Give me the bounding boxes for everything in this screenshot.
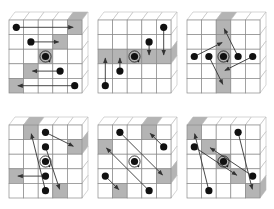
- grid-cell-shaded: [67, 140, 82, 155]
- grid-cell: [202, 78, 217, 93]
- grid-cell: [231, 183, 246, 198]
- grid-cell: [231, 78, 246, 93]
- grid-cell: [67, 154, 82, 169]
- grid-cell: [127, 35, 142, 50]
- particle-dot: [27, 38, 34, 45]
- particle-dot: [71, 82, 78, 89]
- particle-dot: [160, 24, 167, 31]
- grid-cell: [245, 20, 260, 35]
- grid-cell: [156, 183, 171, 198]
- particle-dot: [249, 173, 256, 180]
- grid-cell: [9, 154, 24, 169]
- grid-cell: [24, 49, 39, 64]
- grid-cell: [67, 183, 82, 198]
- panel-1: [9, 12, 88, 93]
- grid-cell: [156, 78, 171, 93]
- panel-2: [98, 12, 177, 93]
- grid-cell: [156, 154, 171, 169]
- grid-cell-shaded: [202, 140, 217, 155]
- particle-dot: [57, 68, 64, 75]
- grid-cell: [187, 169, 202, 184]
- grid-cell: [156, 64, 171, 79]
- particle-dot: [235, 53, 242, 60]
- grid-cell: [187, 20, 202, 35]
- grid-cell: [231, 20, 246, 35]
- grid-cell: [24, 154, 39, 169]
- grid-cell: [245, 140, 260, 155]
- particle-dot: [146, 187, 153, 194]
- center-dot: [131, 53, 138, 60]
- panel-5: [98, 117, 177, 198]
- center-dot: [42, 158, 49, 165]
- grid-cell: [187, 35, 202, 50]
- particle-dot: [116, 68, 123, 75]
- grid-cell: [113, 20, 128, 35]
- particle-dot: [102, 82, 109, 89]
- grid-cell: [216, 140, 231, 155]
- grid-cell: [98, 125, 113, 140]
- grid-cell: [216, 183, 231, 198]
- particle-dot: [191, 53, 198, 60]
- grid-cell: [127, 64, 142, 79]
- grid-cell: [216, 125, 231, 140]
- grid-cell: [187, 154, 202, 169]
- particle-dot: [42, 173, 49, 180]
- grid-cell: [9, 183, 24, 198]
- grid-cell: [245, 64, 260, 79]
- grid-cell: [202, 20, 217, 35]
- grid-cell: [53, 154, 68, 169]
- particle-dot: [42, 187, 49, 194]
- grid-cell: [9, 35, 24, 50]
- particle-dot: [205, 187, 212, 194]
- grid-cell: [142, 140, 157, 155]
- particle-dot: [146, 38, 153, 45]
- grid-cell-shaded: [231, 169, 246, 184]
- particle-dot: [205, 53, 212, 60]
- grid-cell: [113, 78, 128, 93]
- grid-cell: [245, 125, 260, 140]
- center-dot: [220, 53, 227, 60]
- grid-arrow-diagram: [0, 0, 274, 209]
- center-dot: [42, 53, 49, 60]
- particle-dot: [42, 129, 49, 136]
- grid-cell-shaded: [216, 20, 231, 35]
- particle-dot: [102, 173, 109, 180]
- particle-dot: [116, 129, 123, 136]
- grid-cell: [98, 183, 113, 198]
- grid-cell: [9, 140, 24, 155]
- center-dot: [131, 158, 138, 165]
- grid-cell-shaded: [53, 183, 68, 198]
- grid-cell: [98, 154, 113, 169]
- grid-cell: [156, 125, 171, 140]
- grid-cell: [127, 125, 142, 140]
- grid-cell: [142, 78, 157, 93]
- grid-cell: [53, 49, 68, 64]
- grid-cell: [187, 78, 202, 93]
- center-dot: [220, 158, 227, 165]
- particle-dot: [191, 143, 198, 150]
- grid-cell: [9, 64, 24, 79]
- grid-cell: [202, 125, 217, 140]
- particle-dot: [160, 143, 167, 150]
- grid-cell-shaded: [187, 125, 202, 140]
- grid-cell: [245, 35, 260, 50]
- grid-cell: [113, 140, 128, 155]
- grid-cell: [142, 20, 157, 35]
- grid-cell: [113, 35, 128, 50]
- grid-cell: [67, 49, 82, 64]
- grid-cell: [127, 20, 142, 35]
- grid-cell: [245, 78, 260, 93]
- grid-cell-shaded: [245, 183, 260, 198]
- grid-cell: [142, 64, 157, 79]
- grid-cell: [127, 78, 142, 93]
- particle-dot: [42, 143, 49, 150]
- grid-cell: [9, 49, 24, 64]
- grid-cell: [113, 169, 128, 184]
- grid-cell: [9, 125, 24, 140]
- particle-dot: [249, 53, 256, 60]
- grid-cell: [67, 35, 82, 50]
- grid-cell: [127, 183, 142, 198]
- particle-dot: [235, 129, 242, 136]
- grid-cell: [187, 64, 202, 79]
- grid-cell: [67, 125, 82, 140]
